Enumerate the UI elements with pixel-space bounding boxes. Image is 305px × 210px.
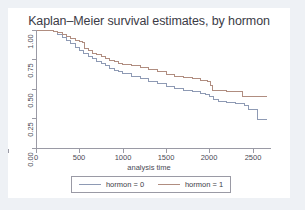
x-tick-label: 2500 — [233, 153, 273, 162]
x-tick-label: 1500 — [146, 153, 186, 162]
x-axis-line — [36, 148, 271, 149]
x-tick-label: 1000 — [103, 153, 143, 162]
y-tick-label: 0.25 — [26, 119, 35, 141]
legend-label: hormon = 0 — [106, 180, 144, 189]
y-tick-label: 1.00 — [26, 31, 35, 53]
x-tick-label: 500 — [59, 153, 99, 162]
y-tick-label: 0.50 — [26, 90, 35, 112]
legend-label: hormon = 1 — [185, 180, 223, 189]
plot-area — [36, 30, 270, 148]
x-tick-label: 2000 — [189, 153, 229, 162]
y-axis-line — [36, 30, 37, 149]
legend-swatch-icon — [158, 184, 180, 186]
y-tick-label: 0.75 — [26, 60, 35, 82]
legend-item-hormon-0[interactable]: hormon = 0 — [79, 180, 144, 189]
series-line-hormon-0 — [36, 30, 267, 120]
legend-item-hormon-1[interactable]: hormon = 1 — [158, 180, 223, 189]
legend-swatch-icon — [79, 184, 101, 186]
chart-legend: hormon = 0 hormon = 1 — [71, 176, 231, 193]
x-tick-mark — [8, 149, 9, 153]
survival-curves — [36, 30, 270, 148]
x-axis-title: analysis time — [8, 163, 290, 172]
x-tick-label: 0 — [16, 153, 56, 162]
chart-title: Kaplan–Meier survival estimates, by horm… — [8, 14, 290, 28]
chart-figure: Kaplan–Meier survival estimates, by horm… — [8, 8, 290, 198]
